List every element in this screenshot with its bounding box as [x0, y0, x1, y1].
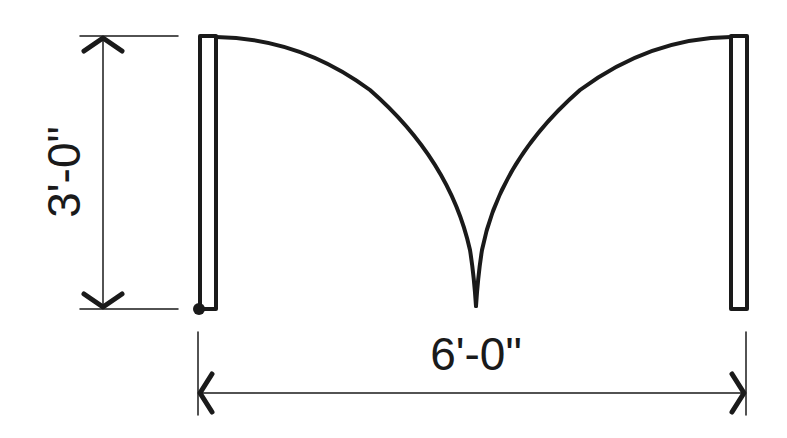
double-door-diagram: 3'-0" 6'-0" — [0, 0, 787, 438]
left-swing-arc — [216, 37, 476, 306]
right-swing-arc — [476, 37, 731, 306]
height-label: 3'-0" — [38, 126, 90, 218]
right-door-leaf — [731, 36, 747, 309]
left-door-leaf — [200, 36, 216, 309]
width-label: 6'-0" — [430, 328, 522, 380]
hinge-point — [193, 303, 205, 315]
